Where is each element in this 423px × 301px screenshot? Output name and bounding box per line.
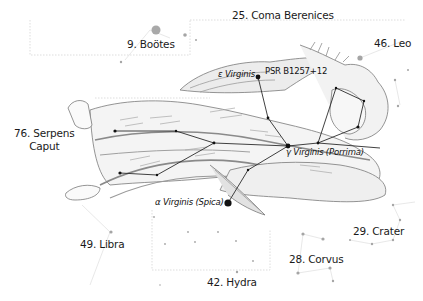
label-epsilon-virginis: ε Virginis xyxy=(218,69,255,79)
star-node xyxy=(335,87,337,89)
label-bootes: 9. Boötes xyxy=(127,38,175,50)
label-leo: 46. Leo xyxy=(374,37,411,49)
gamma-name: Virginis (Porrima) xyxy=(293,147,364,157)
greek-alpha: α xyxy=(155,197,160,207)
label-gamma-virginis: γ Virginis (Porrima) xyxy=(286,147,364,157)
star-node xyxy=(156,174,158,176)
label-crater: 29. Crater xyxy=(353,225,404,237)
greek-epsilon: ε xyxy=(218,69,222,79)
label-alpha-virginis: α Virginis (Spica) xyxy=(155,197,224,207)
star-node xyxy=(113,129,116,132)
alpha-name: Virginis (Spica) xyxy=(163,197,224,207)
virgo-illustration xyxy=(65,42,388,215)
star-node xyxy=(356,125,359,128)
star-node xyxy=(363,100,365,102)
epsilon-name: Virginis xyxy=(225,69,255,79)
star-node xyxy=(317,142,320,145)
star-node xyxy=(118,171,121,174)
label-libra: 49. Libra xyxy=(80,238,124,250)
label-pulsar: PSR B1257+12 xyxy=(265,66,327,76)
star-node xyxy=(267,117,270,120)
star-alpha-virginis xyxy=(224,199,231,206)
greek-gamma: γ xyxy=(286,147,291,157)
label-hydra: 42. Hydra xyxy=(207,276,257,288)
star-node xyxy=(175,130,177,132)
label-coma-berenices: 25. Coma Berenices xyxy=(232,9,334,21)
label-serpens-caput: 76. Serpens Caput xyxy=(14,127,75,153)
star-epsilon-virginis xyxy=(256,75,261,80)
label-serpens-line1: 76. Serpens xyxy=(14,127,75,140)
label-serpens-line2: Caput xyxy=(14,140,75,153)
constellation-map: 9. Boötes 25. Coma Berenices 46. Leo 76.… xyxy=(0,0,423,301)
star-node xyxy=(213,142,216,145)
star-node xyxy=(247,169,249,171)
label-corvus: 28. Corvus xyxy=(289,253,343,265)
